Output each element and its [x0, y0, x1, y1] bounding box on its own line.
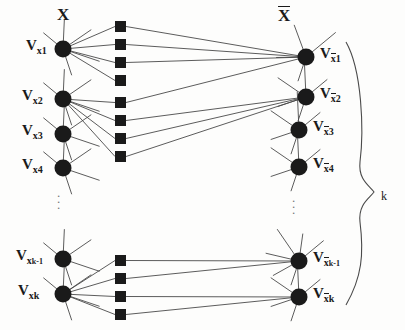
variable-node [291, 253, 308, 270]
edge-clause-to-var [126, 57, 306, 103]
graph-canvas [0, 0, 405, 330]
variable-node [298, 89, 315, 106]
edge-var-to-clause [63, 49, 115, 81]
node-label-vbxk-1: Vxk-1 [313, 250, 340, 269]
variable-node [291, 122, 308, 139]
left-vertical-ellipsis: ... [57, 190, 60, 208]
node-label-vx4: Vx4 [22, 157, 43, 175]
edge-clause-to-var [126, 261, 299, 279]
edge-clause-to-var [126, 261, 299, 262]
variable-node [291, 159, 308, 176]
node-label-vbx3: Vx3 [313, 119, 334, 138]
variable-node [55, 251, 72, 268]
variable-node [55, 286, 72, 303]
edge-clause-to-var [126, 27, 306, 58]
brace-k-label: k [381, 190, 387, 202]
clause-square [115, 57, 126, 68]
edge-clause-to-var [126, 297, 299, 298]
left-set-label: X [57, 6, 69, 23]
node-label-vbxk: Vxk [313, 286, 334, 305]
node-label-vbx1: Vx1 [320, 46, 341, 65]
right-vertical-ellipsis: ... [292, 195, 295, 213]
variable-node [55, 41, 72, 58]
clause-square [115, 133, 126, 144]
node-label-vx1: Vx1 [26, 38, 47, 56]
clause-square [115, 75, 126, 86]
node-label-vx2: Vx2 [22, 88, 43, 106]
clause-square [115, 21, 126, 32]
clause-square [115, 291, 126, 302]
right-set-label-text: X [278, 6, 290, 25]
clause-square [115, 115, 126, 126]
variable-nodes-layer [55, 41, 315, 306]
clause-square [115, 255, 126, 266]
variable-node [55, 160, 72, 177]
node-label-vx3: Vx3 [22, 123, 43, 141]
brace-layer [346, 42, 374, 305]
bipartite-graph-figure: X X k Vx1Vx2Vx3Vx4Vxk-1Vxk Vx1Vx2Vx3Vx4V… [0, 0, 405, 330]
clause-square [115, 309, 126, 320]
edge-clause-to-var [126, 45, 306, 58]
right-brace [346, 42, 374, 305]
clause-square [115, 97, 126, 108]
node-label-vbx4: Vx4 [313, 156, 334, 175]
right-set-label: X [278, 6, 290, 25]
variable-node [291, 289, 308, 306]
clause-square [115, 39, 126, 50]
variable-node [55, 126, 72, 143]
node-label-vxk-1: Vxk-1 [16, 248, 43, 266]
node-label-vbx2: Vx2 [320, 86, 341, 105]
variable-node [298, 49, 315, 66]
clause-square [115, 151, 126, 162]
node-label-vxk: Vxk [18, 283, 39, 301]
edge-clause-to-var [126, 97, 306, 121]
edge-clause-to-var [126, 97, 306, 139]
clause-square [115, 273, 126, 284]
variable-node [55, 91, 72, 108]
clause-squares-layer [115, 21, 126, 320]
